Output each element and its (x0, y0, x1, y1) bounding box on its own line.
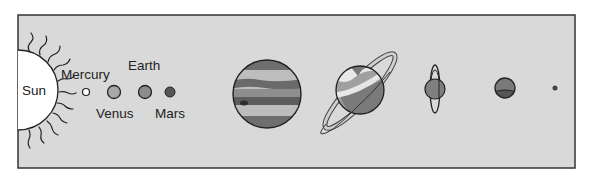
mercury-planet-icon (83, 89, 90, 96)
venus-label: Venus (96, 106, 134, 121)
pluto-planet-icon (553, 86, 558, 91)
earth-label: Earth (128, 58, 160, 73)
solar-system-diagram: Sun Mercury Venus Earth Mars (0, 0, 591, 178)
sun-label: Sun (22, 83, 46, 98)
venus-planet-icon (108, 86, 121, 99)
earth-planet-icon (139, 86, 152, 99)
mars-label: Mars (155, 106, 185, 121)
mercury-label: Mercury (61, 67, 110, 82)
mars-planet-icon (165, 87, 175, 97)
